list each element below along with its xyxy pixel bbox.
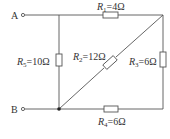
terminal-a-icon (21, 13, 24, 16)
terminal-b-label: B (11, 104, 18, 115)
terminal-a-label: A (11, 10, 19, 21)
resistor-r5 (56, 54, 62, 66)
wire-diag-lower (59, 68, 104, 109)
resistor-r4 (104, 106, 118, 112)
circuit-diagram: A B R1=4Ω R2=12Ω R3=6Ω R4=6Ω R5=10Ω (0, 0, 170, 139)
r3-label: R3=6Ω (128, 56, 157, 69)
r4-label: R4=6Ω (97, 116, 126, 129)
r5-label: R5=10Ω (16, 56, 50, 69)
terminal-b-icon (21, 107, 24, 110)
resistor-r3 (160, 52, 166, 67)
junction-dot-icon (57, 107, 61, 111)
wire-diag-upper (116, 15, 163, 57)
r2-label: R2=12Ω (72, 51, 106, 64)
